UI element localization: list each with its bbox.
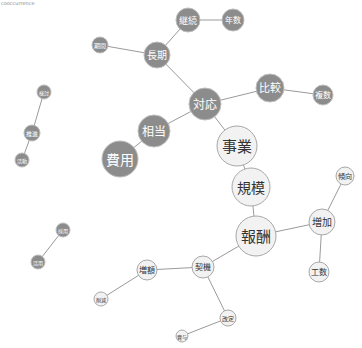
node-jigyo[interactable]: 事業 <box>217 126 257 166</box>
node-keiki[interactable]: 契機 <box>192 256 214 278</box>
node-katsuyo[interactable]: 活用 <box>31 255 45 269</box>
node-label: 複数 <box>315 90 331 100</box>
node-label: 改定 <box>222 315 234 323</box>
node-zoka[interactable]: 増加 <box>309 209 335 235</box>
node-kikan[interactable]: 期間 <box>92 37 108 53</box>
node-label: 比較 <box>259 81 281 95</box>
node-hoshu[interactable]: 報酬 <box>236 216 276 256</box>
node-label: 工数 <box>311 267 327 277</box>
node-zogaku[interactable]: 増額 <box>137 260 157 280</box>
node-label: 増額 <box>139 265 155 275</box>
node-katsudo[interactable]: 活動 <box>15 153 29 167</box>
node-label: 規模 <box>237 180 265 196</box>
node-keizoku[interactable]: 継続 <box>176 8 200 32</box>
cooccurrence-network: 継続年数期間長期比較複数対応相当費用事業規模傾向増加報酬工数増額契機改定削減賞与… <box>0 0 362 348</box>
node-hikaku[interactable]: 比較 <box>256 74 284 102</box>
node-label: 事業 <box>222 138 252 156</box>
edge-layer <box>22 20 345 336</box>
node-label: 賞与 <box>177 334 187 341</box>
node-label: 推進 <box>26 130 38 138</box>
node-label: 報酬 <box>241 228 271 246</box>
node-label: 期間 <box>94 42 106 50</box>
node-label: 契機 <box>195 262 211 272</box>
node-shoyo[interactable]: 賞与 <box>176 330 188 342</box>
node-choki[interactable]: 長期 <box>144 42 170 68</box>
node-label: 対応 <box>193 98 217 112</box>
node-label: 活動 <box>17 158 27 165</box>
node-fukusu[interactable]: 複数 <box>313 85 333 105</box>
node-label: 活用 <box>33 260 43 267</box>
node-label: 費用 <box>106 152 134 168</box>
node-kento[interactable]: 検討 <box>37 85 51 99</box>
node-soto[interactable]: 相当 <box>138 115 170 147</box>
node-label: 長期 <box>147 50 167 61</box>
node-label: 増加 <box>312 216 332 228</box>
node-kibo[interactable]: 規模 <box>232 168 270 206</box>
node-layer: 継続年数期間長期比較複数対応相当費用事業規模傾向増加報酬工数増額契機改定削減賞与… <box>15 8 354 342</box>
node-label: 継続 <box>179 15 197 26</box>
node-label: 年数 <box>225 15 241 25</box>
node-taio[interactable]: 対応 <box>189 88 221 120</box>
node-kosu[interactable]: 工数 <box>309 262 329 282</box>
node-keiko[interactable]: 傾向 <box>336 167 354 185</box>
node-label: 採用 <box>58 228 68 235</box>
node-label: 検討 <box>39 90 49 97</box>
node-saiyo[interactable]: 採用 <box>56 223 70 237</box>
node-sakugen[interactable]: 削減 <box>94 292 108 306</box>
node-suishin[interactable]: 推進 <box>24 125 40 141</box>
node-nensu[interactable]: 年数 <box>222 9 244 31</box>
node-hiyo[interactable]: 費用 <box>102 141 138 177</box>
node-label: 削減 <box>96 297 106 304</box>
node-kaitei[interactable]: 改定 <box>220 310 236 326</box>
node-label: 相当 <box>142 125 166 139</box>
node-label: 傾向 <box>338 172 352 181</box>
